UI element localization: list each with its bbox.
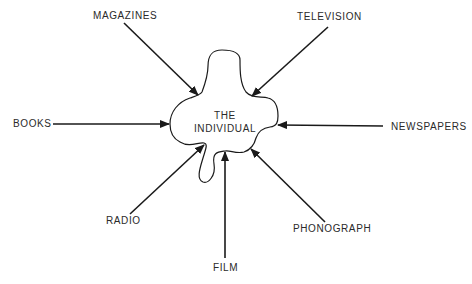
arrow-radio: [130, 145, 204, 214]
center-label: THE INDIVIDUAL: [190, 109, 260, 135]
label-newspapers: NEWSPAPERS: [391, 121, 467, 133]
arrow-newspapers: [278, 125, 383, 126]
center-label-line1: THE: [190, 109, 260, 122]
label-magazines: MAGAZINES: [93, 10, 157, 22]
label-television: TELEVISION: [297, 11, 362, 23]
label-phonograph: PHONOGRAPH: [293, 223, 371, 235]
arrow-magazines: [124, 23, 198, 95]
arrow-television: [252, 27, 328, 96]
label-radio: RADIO: [106, 215, 141, 227]
center-label-line2: INDIVIDUAL: [190, 122, 260, 135]
arrow-phonograph: [251, 149, 325, 222]
label-books: BOOKS: [13, 118, 52, 130]
label-film: FILM: [213, 262, 238, 274]
media-influence-diagram: [0, 0, 472, 284]
